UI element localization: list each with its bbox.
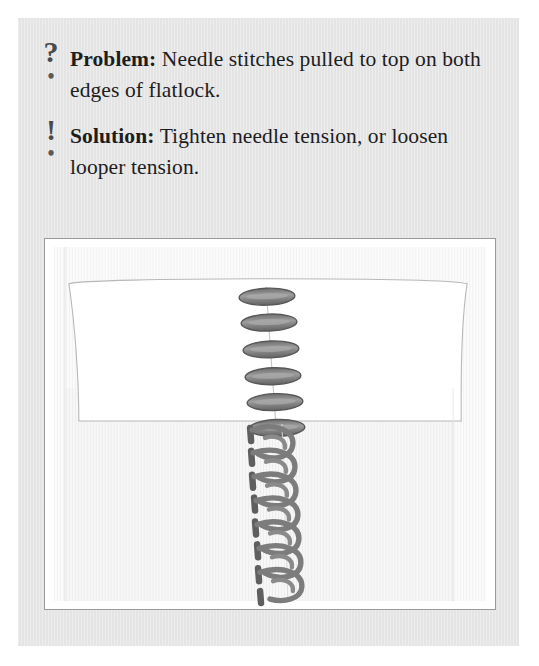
solution-label: Solution: — [70, 124, 155, 148]
flatlock-seam-illustration — [44, 238, 496, 610]
exclamation-mark-dot-icon: • — [38, 143, 64, 163]
problem-row: ? • Problem: Needle stitches pulled to t… — [34, 44, 504, 105]
exclamation-mark-icon: ! — [38, 116, 64, 145]
flatlock-seam-svg — [45, 239, 495, 609]
solution-row: ! • Solution: Tighten needle tension, or… — [34, 121, 504, 182]
question-mark-icon: ? — [38, 37, 64, 67]
problem-text: Problem: Needle stitches pulled to top o… — [70, 44, 504, 105]
solution-text: Solution: Tighten needle tension, or loo… — [70, 121, 504, 182]
tip-text-block: ? • Problem: Needle stitches pulled to t… — [34, 44, 504, 198]
tip-card: ? • Problem: Needle stitches pulled to t… — [18, 18, 519, 646]
problem-label: Problem: — [70, 47, 156, 71]
question-mark-dot-icon: • — [38, 66, 64, 86]
